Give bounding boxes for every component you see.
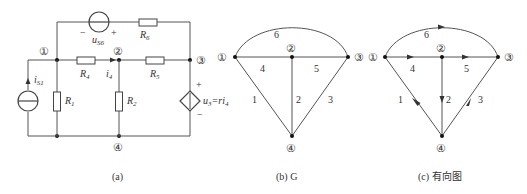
edge-label-1: 1 — [398, 94, 403, 105]
figure: − + uS6 R6 R4 i4 R5 ① ② ③ ④ — [0, 0, 527, 194]
edge-label-5: 5 — [314, 63, 319, 74]
voltage-source-us6 — [89, 12, 109, 32]
label-us6: uS6 — [92, 34, 105, 47]
dependent-voltage-source-u3 — [180, 91, 200, 111]
label-i4: i4 — [106, 68, 113, 81]
label-r6: R6 — [139, 29, 150, 42]
edge-label-2: 2 — [446, 94, 451, 105]
arrow-edge-5 — [462, 55, 469, 60]
arrow-edge-2 — [440, 96, 445, 103]
node-dot-3 — [496, 55, 500, 59]
edge-label-4: 4 — [260, 63, 265, 74]
resistor-r4 — [77, 57, 95, 64]
node-label-2: ② — [113, 45, 123, 57]
arrow-edge-6 — [438, 25, 445, 30]
node-dot-3 — [346, 55, 350, 59]
node-label-1: ① — [217, 51, 227, 63]
node-label-1: ① — [39, 45, 49, 57]
node-label-2: ② — [436, 42, 446, 54]
minus-sign: − — [80, 27, 86, 38]
minus-sign-u3: − — [197, 109, 203, 120]
node-dot-4 — [440, 134, 444, 138]
edge-label-6: 6 — [424, 29, 429, 40]
caption-c: (c) 有向图 — [418, 170, 462, 183]
resistor-r5 — [146, 57, 164, 64]
node-label-3: ③ — [196, 54, 206, 66]
caption-b: (b) G — [276, 171, 297, 183]
edge-label-4: 4 — [410, 63, 415, 74]
current-arrow-is1 — [26, 78, 31, 84]
plus-sign-u3: + — [196, 79, 202, 90]
node-label-3: ③ — [354, 51, 364, 63]
circuit-a: − + uS6 R6 R4 i4 R5 ① ② ③ ④ — [18, 12, 229, 183]
node-label-3: ③ — [504, 51, 514, 63]
resistor-r1 — [54, 92, 61, 111]
node-dot-4 — [290, 134, 294, 138]
label-r5: R5 — [149, 68, 160, 81]
node-dot-2 — [440, 55, 444, 59]
edge-label-6: 6 — [274, 29, 279, 40]
node-label-4: ④ — [286, 142, 296, 154]
current-arrow-i4 — [110, 58, 116, 63]
node-dot-2 — [290, 55, 294, 59]
edge-label-1: 1 — [252, 94, 257, 105]
node-label-4: ④ — [113, 141, 123, 153]
node-label-4: ④ — [436, 142, 446, 154]
plus-sign: + — [111, 27, 117, 38]
label-r4: R4 — [79, 68, 90, 81]
node-label-2: ② — [286, 42, 296, 54]
edge-label-3: 3 — [328, 94, 333, 105]
caption-a: (a) — [112, 171, 123, 183]
edge-label-3: 3 — [478, 94, 483, 105]
node-dot-1 — [233, 55, 237, 59]
graph-c: ① ② ③ ④ 6 4 5 1 2 3 (c) 有向图 — [368, 25, 514, 184]
graph-b: ① ② ③ ④ 6 4 5 1 2 3 (b) G — [217, 28, 364, 183]
resistor-r6 — [139, 19, 157, 26]
label-u3: u3=ri4 — [203, 95, 229, 108]
current-source-is1 — [18, 91, 38, 111]
arrow-edge-4 — [407, 55, 414, 60]
edge-label-5: 5 — [464, 63, 469, 74]
edge-label-2: 2 — [296, 94, 301, 105]
label-r2: R2 — [126, 95, 137, 108]
label-is1: iS1 — [34, 74, 44, 87]
node-label-1: ① — [368, 51, 378, 63]
label-r1: R1 — [64, 95, 75, 108]
node-dot-1 — [383, 55, 387, 59]
resistor-r2 — [116, 92, 123, 111]
